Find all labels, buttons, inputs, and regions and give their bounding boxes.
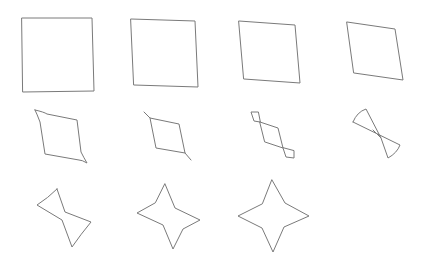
shape-morph-diagram	[0, 0, 424, 267]
shape-9-twisted-star	[37, 189, 91, 247]
shape-5-curved-rhombus	[35, 110, 87, 163]
shape-4-rhombus	[347, 22, 403, 80]
shape-7-rhombus-loops	[251, 112, 294, 158]
shape-1-square	[22, 18, 94, 92]
shape-8-bowtie-fans	[353, 109, 400, 158]
shape-6-rhombus-tails	[144, 112, 191, 160]
shape-2-rotated-square	[131, 19, 198, 87]
diagram-svg	[0, 0, 424, 267]
shape-3-sheared-quad	[239, 21, 300, 83]
shape-11-four-pointed-star	[238, 180, 309, 252]
shape-10-skewed-star	[137, 184, 200, 249]
